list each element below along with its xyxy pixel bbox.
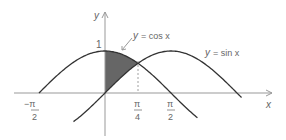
graph: y x 1 y = cos x y = sin x −π 2 π 4 π 2 [0,0,286,140]
tick-neg-pi-denominator: 2 [32,112,37,122]
y-tick-1: 1 [96,39,102,50]
shaded-region [105,51,138,93]
cos-label: = cos x [141,31,170,41]
x-axis-label: x [265,99,272,110]
sin-label-y: y [204,47,211,58]
sin-curve [73,51,241,122]
tick-pi4-denominator: 4 [135,112,140,122]
y-axis-label: y [93,10,100,21]
tick-pi2-denominator: 2 [168,112,173,122]
sin-label: = sin x [213,48,240,58]
tick-pi4-numerator: π [134,99,140,109]
cos-label-y: y [132,30,139,41]
cos-pointer [122,38,132,50]
tick-neg-pi-numerator: −π [24,99,35,109]
tick-pi2-numerator: π [167,99,173,109]
